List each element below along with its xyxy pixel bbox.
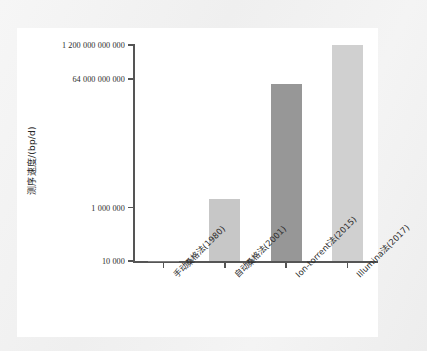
x-axis-category-label: Ion-torrent法(2015) — [292, 271, 300, 279]
plot-area: 10 0001 000 00064 000 000 0001 200 000 0… — [17, 28, 378, 337]
x-axis-category-labels: 手动桑格法(1980)自动桑格法(2001)Ion-torrent法(2015)… — [17, 28, 378, 337]
x-axis-category-label: Illumina法(2017) — [353, 271, 361, 279]
x-axis-category-label: 手动桑格法(1980) — [170, 271, 178, 279]
figure-card: 10 0001 000 00064 000 000 0001 200 000 0… — [17, 28, 378, 337]
x-axis-category-label: 自动桑格法(2001) — [231, 271, 239, 279]
